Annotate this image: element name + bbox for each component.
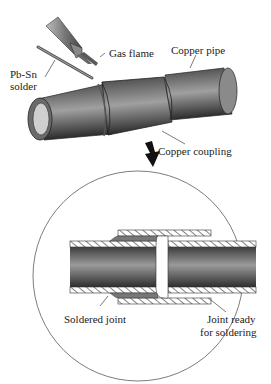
label-copper-pipe: Copper pipe: [171, 44, 225, 56]
label-soldered-joint: Soldered joint: [64, 313, 126, 325]
label-joint-ready-line1: Joint ready: [207, 313, 256, 325]
soldering-diagram: Gas flame Copper pipe Pb-Sn solder Coppe…: [0, 0, 271, 384]
label-solder-line1: Pb-Sn: [10, 68, 37, 80]
copper-pipe-assembly: [28, 68, 237, 140]
solder-fill: [110, 236, 158, 241]
label-gas-flame: Gas flame: [109, 47, 154, 59]
label-copper-coupling: Copper coupling: [158, 145, 232, 157]
detail-cross-section: [70, 230, 256, 304]
label-joint-ready-line2: for soldering: [200, 326, 257, 338]
label-solder-line2: solder: [10, 80, 37, 92]
